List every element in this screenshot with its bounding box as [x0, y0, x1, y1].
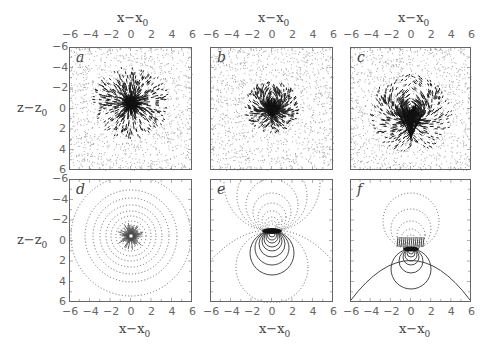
- x-tick-bottom-f: −2: [383, 305, 399, 318]
- x-tick-bottom-f: 6: [468, 305, 475, 318]
- y-tick-a: −2: [52, 81, 68, 94]
- x-tick-top-a: 6: [189, 28, 196, 41]
- bottom-x-axis-title-e: x−x0: [259, 321, 290, 339]
- x-tick-bottom-d: −4: [83, 305, 99, 318]
- axis-title-sub: 0: [425, 329, 431, 339]
- x-tick-bottom-f: 0: [408, 305, 415, 318]
- x-tick-bottom-d: 2: [148, 305, 155, 318]
- panel-label-e: e: [217, 181, 225, 197]
- y-axis-title-bottom: z−z0: [17, 232, 47, 250]
- y-tick-d: −2: [52, 213, 68, 226]
- y-tick-a: 0: [59, 102, 66, 115]
- x-tick-bottom-e: 2: [289, 305, 296, 318]
- x-tick-top-c: 2: [428, 28, 435, 41]
- axis-title-text: z−z: [17, 100, 42, 115]
- panel-e: e: [210, 179, 334, 303]
- y-axis-title-top: z−z0: [17, 100, 47, 118]
- panel-a-plot: [69, 47, 193, 171]
- panel-d: d: [69, 179, 193, 303]
- x-tick-bottom-e: −6: [203, 305, 219, 318]
- axis-title-sub: 0: [42, 240, 48, 250]
- y-tick-d: 2: [59, 254, 66, 267]
- panel-e-plot: [210, 179, 334, 303]
- panel-label-f: f: [357, 181, 362, 197]
- panel-b-plot: [210, 47, 334, 171]
- axis-title-sub: 0: [284, 18, 290, 28]
- x-tick-top-b: 6: [330, 28, 337, 41]
- y-tick-a: −6: [52, 40, 68, 53]
- top-x-axis-title-a: x−x0: [117, 10, 148, 28]
- x-tick-bottom-d: −2: [103, 305, 119, 318]
- axis-title-sub: 0: [285, 329, 291, 339]
- axis-title-text: x−x: [259, 321, 285, 336]
- axis-title-text: z−z: [17, 232, 42, 247]
- axis-title-sub: 0: [143, 18, 149, 28]
- x-tick-bottom-d: 0: [128, 305, 135, 318]
- axis-title-text: x−x: [119, 321, 145, 336]
- x-tick-top-b: 4: [310, 28, 317, 41]
- x-tick-bottom-e: 0: [269, 305, 276, 318]
- panel-label-d: d: [76, 181, 85, 197]
- x-tick-top-a: −4: [83, 28, 99, 41]
- x-tick-bottom-e: 4: [310, 305, 317, 318]
- panel-d-plot: [69, 179, 193, 303]
- panel-c-plot: [350, 47, 472, 171]
- panel-label-b: b: [217, 49, 226, 65]
- y-tick-a: 2: [59, 122, 66, 135]
- x-tick-bottom-e: −2: [244, 305, 260, 318]
- y-tick-a: 4: [59, 143, 66, 156]
- x-tick-top-c: 4: [448, 28, 455, 41]
- axis-title-text: x−x: [399, 321, 425, 336]
- axis-title-sub: 0: [424, 18, 430, 28]
- x-tick-top-c: −2: [383, 28, 399, 41]
- x-tick-top-a: 4: [169, 28, 176, 41]
- x-tick-top-c: 6: [468, 28, 475, 41]
- x-tick-bottom-f: 2: [428, 305, 435, 318]
- x-tick-top-a: −2: [103, 28, 119, 41]
- x-tick-bottom-f: 4: [448, 305, 455, 318]
- x-tick-top-b: 2: [289, 28, 296, 41]
- panel-f-plot: [350, 179, 472, 303]
- x-tick-top-c: 0: [408, 28, 415, 41]
- x-tick-top-c: −6: [343, 28, 359, 41]
- y-tick-d: −6: [52, 172, 68, 185]
- x-tick-bottom-f: −6: [343, 305, 359, 318]
- panel-c: c: [350, 47, 472, 171]
- top-x-axis-title-b: x−x0: [258, 10, 289, 28]
- x-tick-bottom-d: 4: [169, 305, 176, 318]
- axis-title-sub: 0: [42, 108, 48, 118]
- x-tick-top-b: 0: [269, 28, 276, 41]
- x-tick-top-b: −4: [224, 28, 240, 41]
- x-tick-top-b: −2: [244, 28, 260, 41]
- x-tick-top-c: −4: [363, 28, 379, 41]
- top-x-axis-title-c: x−x0: [398, 10, 429, 28]
- x-tick-top-a: 0: [128, 28, 135, 41]
- axis-title-sub: 0: [145, 329, 151, 339]
- axis-title-text: x−x: [117, 10, 143, 25]
- panel-f: f: [350, 179, 472, 303]
- y-tick-d: −4: [52, 193, 68, 206]
- panel-b: b: [210, 47, 334, 171]
- panel-a: a: [69, 47, 193, 171]
- y-tick-d: 0: [59, 234, 66, 247]
- x-tick-bottom-e: −4: [224, 305, 240, 318]
- y-tick-d: 6: [59, 295, 66, 308]
- x-tick-top-a: 2: [148, 28, 155, 41]
- x-tick-bottom-d: 6: [189, 305, 196, 318]
- x-tick-bottom-e: 6: [330, 305, 337, 318]
- bottom-x-axis-title-d: x−x0: [119, 321, 150, 339]
- y-tick-d: 4: [59, 275, 66, 288]
- bottom-x-axis-title-f: x−x0: [399, 321, 430, 339]
- panel-label-a: a: [76, 49, 84, 65]
- axis-title-text: x−x: [258, 10, 284, 25]
- axis-title-text: x−x: [398, 10, 424, 25]
- panel-label-c: c: [357, 49, 365, 65]
- y-tick-a: −4: [52, 61, 68, 74]
- x-tick-bottom-f: −4: [363, 305, 379, 318]
- x-tick-top-b: −6: [203, 28, 219, 41]
